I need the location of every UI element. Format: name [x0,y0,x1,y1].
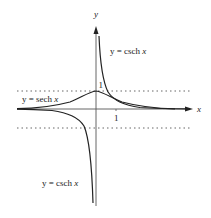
x-tick-label: 1 [114,113,119,123]
y-axis-label: y [93,9,98,19]
csch-lower-label: y = csch x [42,178,78,188]
csch-lower-curve [17,109,93,203]
sech-label: y = sech x [22,94,58,104]
csch-upper-label: y = csch x [110,46,146,56]
hyperbolic-graph: y x 1 1 y = csch x y = sech x y = csch x [0,0,211,218]
x-axis-label: x [196,104,201,114]
y-axis-arrow-icon [94,26,99,34]
graph-canvas: y x 1 1 y = csch x y = sech x y = csch x [0,0,211,218]
y-tick-label: 1 [99,80,104,90]
